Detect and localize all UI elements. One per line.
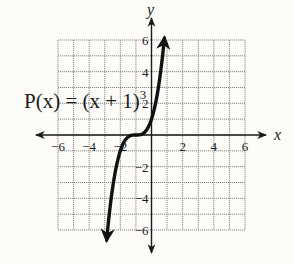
y-tick-label: 4 [142, 65, 149, 80]
y-tick-label: −4 [135, 191, 149, 206]
function-exponent: 3 [140, 87, 147, 102]
y-axis-label: y [145, 1, 155, 19]
function-label: P(x) = (x + 1)3 [24, 87, 146, 113]
function-label-text: P(x) = (x + 1) [24, 89, 140, 113]
cubic-function-plot: −6−4−2246642−2−4−6 x y P(x) = (x + 1)3 [0, 0, 294, 264]
x-tick-label: 2 [179, 139, 186, 154]
y-tick-label: 6 [142, 33, 149, 48]
graph-figure: −6−4−2246642−2−4−6 x y P(x) = (x + 1)3 [0, 0, 294, 264]
axes [36, 18, 266, 253]
x-tick-label: 6 [242, 139, 249, 154]
y-tick-label: −6 [135, 223, 149, 238]
x-axis-label: x [273, 126, 281, 143]
x-tick-label: 4 [211, 139, 218, 154]
x-tick-label: −4 [82, 139, 96, 154]
x-tick-label: −6 [51, 139, 65, 154]
y-tick-label: −2 [135, 160, 149, 175]
